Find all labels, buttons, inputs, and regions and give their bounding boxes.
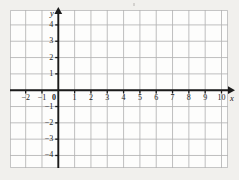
y-tick-label: −4 — [0, 151, 53, 159]
y-tick-label: 1 — [0, 70, 53, 78]
x-tick-label: 9 — [203, 94, 207, 102]
x-tick-label: 2 — [89, 94, 93, 102]
y-tick-label: −3 — [0, 135, 53, 143]
x-tick-label: 7 — [171, 94, 175, 102]
x-tick-label: −1 — [38, 94, 47, 102]
x-tick-label: 1 — [73, 94, 77, 102]
x-tick-label: 4 — [122, 94, 126, 102]
y-tick-label: −2 — [0, 119, 53, 127]
origin-label: 0 — [52, 94, 56, 102]
y-axis-arrowhead — [54, 7, 62, 14]
x-tick-label: 6 — [154, 94, 158, 102]
x-tick-label: 10 — [218, 94, 226, 102]
y-axis-label: y — [50, 9, 54, 18]
x-axis-label: x — [230, 94, 234, 103]
y-tick-label: 3 — [0, 37, 53, 45]
y-tick-label: 4 — [0, 21, 53, 29]
x-tick-label: 3 — [105, 94, 109, 102]
x-tick-label: −2 — [21, 94, 30, 102]
y-tick-label: −1 — [0, 103, 53, 111]
x-tick-label: 5 — [138, 94, 142, 102]
figure-canvas: −2−10123456789104321−1−2−3−4 x y — [0, 0, 239, 180]
y-axis — [54, 7, 62, 168]
y-tick-label: 2 — [0, 54, 53, 62]
x-tick-label: 8 — [187, 94, 191, 102]
